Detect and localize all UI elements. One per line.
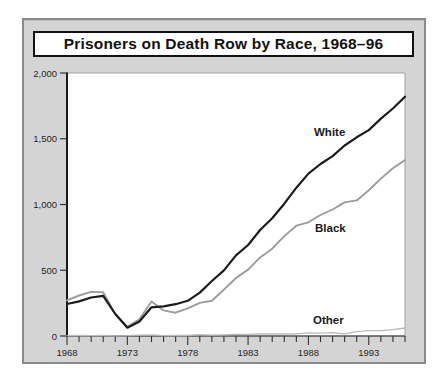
series-label-white: White — [314, 126, 345, 138]
death-row-chart-figure: Prisoners on Death Row by Race, 1968–96 … — [0, 0, 445, 384]
series-label-black: Black — [315, 222, 346, 234]
plot-area — [67, 73, 405, 336]
y-tick-label: 1,500 — [33, 133, 57, 144]
y-tick-label: 2,000 — [33, 68, 57, 79]
x-tick-label: 1988 — [298, 347, 319, 358]
x-tick-label: 1983 — [238, 347, 259, 358]
x-tick-label: 1973 — [117, 347, 138, 358]
x-tick-label: 1978 — [177, 347, 198, 358]
series-label-other: Other — [313, 314, 344, 326]
y-tick-label: 1,000 — [33, 199, 57, 210]
line-chart-canvas: 05001,0001,5002,000196819731978198319881… — [0, 0, 445, 384]
x-tick-label: 1993 — [358, 347, 379, 358]
y-tick-label: 500 — [41, 265, 57, 276]
x-tick-label: 1968 — [56, 347, 77, 358]
y-tick-label: 0 — [52, 331, 57, 342]
